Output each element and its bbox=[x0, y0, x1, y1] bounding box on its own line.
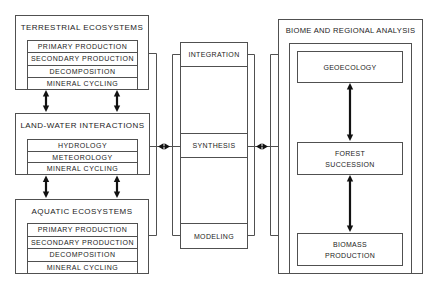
biome-left-bracket bbox=[271, 55, 279, 236]
process-row: METEOROLOGY bbox=[28, 152, 137, 164]
double-arrow-landwater-aquatic-right bbox=[114, 176, 120, 199]
horizontal-double-arrow-left bbox=[158, 143, 170, 149]
double-arrow-landwater-aquatic-left bbox=[43, 176, 49, 199]
process-row: SECONDARY PRODUCTION bbox=[28, 53, 137, 65]
ecosystem-research-diagram: TERRESTRIAL ECOSYSTEMS PRIMARY PRODUCTIO… bbox=[0, 0, 434, 286]
process-row: MINERAL CYCLING bbox=[28, 163, 137, 174]
land-water-interactions-title: LAND-WATER INTERACTIONS bbox=[16, 121, 149, 131]
forest-succession-label-line2: SUCCESSION bbox=[325, 159, 374, 170]
biome-inner-frame: GEOECOLOGY FOREST SUCCESSION BIOMASS PRO… bbox=[289, 43, 412, 274]
forest-succession-box: FOREST SUCCESSION bbox=[297, 142, 403, 175]
process-row: DECOMPOSITION bbox=[28, 249, 137, 262]
center-right-bracket bbox=[247, 55, 255, 236]
biome-regional-analysis-title: BIOME AND REGIONAL ANALYSIS bbox=[279, 26, 422, 36]
center-left-bracket bbox=[173, 55, 181, 236]
synthesis-band: SYNTHESIS bbox=[181, 133, 247, 158]
horizontal-double-arrow-right bbox=[256, 143, 268, 149]
biomass-production-label-line1: BIOMASS bbox=[333, 239, 367, 250]
aquatic-ecosystems-box: AQUATIC ECOSYSTEMS PRIMARY PRODUCTION SE… bbox=[15, 199, 149, 274]
terrestrial-ecosystems-title: TERRESTRIAL ECOSYSTEMS bbox=[16, 23, 148, 33]
modeling-band: MODELING bbox=[181, 223, 247, 248]
geoecology-label: GEOECOLOGY bbox=[323, 62, 376, 73]
biome-regional-analysis-box: BIOME AND REGIONAL ANALYSIS GEOECOLOGY F… bbox=[278, 19, 423, 274]
center-column: INTEGRATION SYNTHESIS MODELING bbox=[180, 42, 248, 249]
process-row: MINERAL CYCLING bbox=[28, 78, 137, 89]
process-row: PRIMARY PRODUCTION bbox=[28, 224, 137, 237]
aquatic-ecosystems-title: AQUATIC ECOSYSTEMS bbox=[16, 207, 148, 217]
land-water-interactions-box: LAND-WATER INTERACTIONS HYDROLOGY METEOR… bbox=[15, 113, 150, 175]
process-row: MINERAL CYCLING bbox=[28, 262, 137, 274]
process-row: DECOMPOSITION bbox=[28, 66, 137, 78]
terrestrial-process-table: PRIMARY PRODUCTION SECONDARY PRODUCTION … bbox=[27, 40, 138, 90]
double-arrow-terrestrial-landwater-right bbox=[114, 90, 120, 112]
process-row: PRIMARY PRODUCTION bbox=[28, 41, 137, 53]
process-row: HYDROLOGY bbox=[28, 140, 137, 152]
land-water-process-table: HYDROLOGY METEOROLOGY MINERAL CYCLING bbox=[27, 139, 138, 175]
biomass-production-label-line2: PRODUCTION bbox=[325, 250, 375, 261]
biomass-production-box: BIOMASS PRODUCTION bbox=[297, 233, 403, 266]
aquatic-process-table: PRIMARY PRODUCTION SECONDARY PRODUCTION … bbox=[27, 223, 138, 274]
double-arrow-terrestrial-landwater-left bbox=[43, 90, 49, 112]
integration-band: INTEGRATION bbox=[181, 43, 247, 67]
terrestrial-ecosystems-box: TERRESTRIAL ECOSYSTEMS PRIMARY PRODUCTIO… bbox=[15, 15, 149, 90]
process-row: SECONDARY PRODUCTION bbox=[28, 237, 137, 250]
geoecology-box: GEOECOLOGY bbox=[297, 51, 403, 83]
forest-succession-label-line1: FOREST bbox=[335, 148, 365, 159]
